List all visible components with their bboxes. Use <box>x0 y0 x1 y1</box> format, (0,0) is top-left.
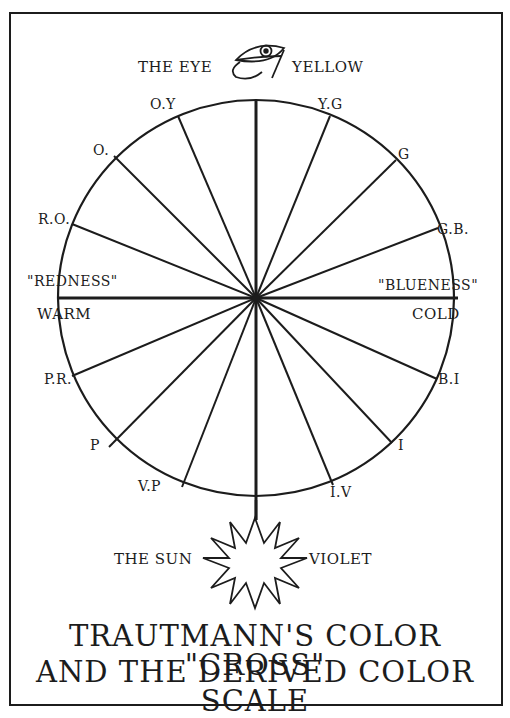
spoke-iv <box>256 298 333 485</box>
label-yg: Y.G <box>318 97 343 111</box>
sun-icon <box>203 518 307 608</box>
label-blueness: "BLUENESS" <box>378 278 478 292</box>
spoke-o <box>114 156 256 298</box>
label-iv: I.V <box>330 485 352 499</box>
spoke-i <box>256 298 392 443</box>
label-g: G <box>398 147 410 161</box>
label-bi: B.I <box>438 372 460 386</box>
title-line-2: AND THE DERIVED COLOR SCALE <box>0 658 510 716</box>
label-gb: G.B. <box>437 222 469 236</box>
label-pr: P.R. <box>44 372 72 386</box>
spoke-g <box>256 160 396 298</box>
diagram-stage: THE EYE YELLOW O.Y O. R.O. P.R. P V.P Y.… <box>0 0 510 718</box>
spoke-pr <box>72 298 256 376</box>
label-the-eye: THE EYE <box>138 60 212 75</box>
label-warm: WARM <box>37 307 91 322</box>
spoke-p <box>109 298 256 447</box>
label-o: O. <box>93 143 109 157</box>
label-ro: R.O. <box>38 212 70 226</box>
label-cold: COLD <box>412 307 460 322</box>
label-violet: VIOLET <box>309 552 372 567</box>
label-oy: O.Y <box>150 97 176 111</box>
label-vp: V.P <box>138 479 161 493</box>
diagram-graphics <box>0 0 510 718</box>
label-redness: "REDNESS" <box>27 274 118 288</box>
spoke-yg <box>256 116 330 298</box>
eye-icon <box>233 46 284 79</box>
spoke-vp <box>182 298 256 487</box>
spoke-bi <box>256 298 437 379</box>
label-i: I <box>398 438 404 452</box>
label-p: P <box>90 438 100 452</box>
label-yellow: YELLOW <box>292 60 364 75</box>
label-the-sun: THE SUN <box>114 552 192 567</box>
center-point <box>252 294 260 302</box>
